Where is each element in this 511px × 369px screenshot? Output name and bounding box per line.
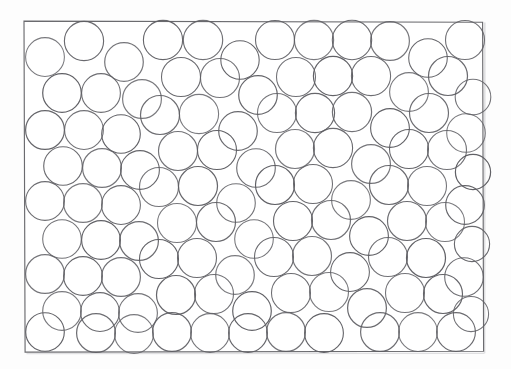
circle-packing-figure: Random circle packing in a rectangle Han… [0,0,511,369]
figure-root: Random circle packing in a rectangle Han… [0,0,511,369]
